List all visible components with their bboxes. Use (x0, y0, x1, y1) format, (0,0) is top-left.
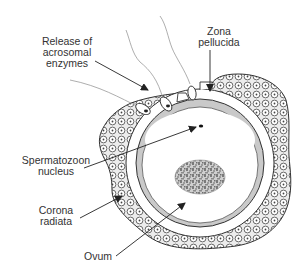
sperm-tail (160, 16, 190, 84)
label-ovum: Ovum (82, 251, 114, 262)
sperm-tail (126, 30, 163, 99)
label-acrosomal-enzymes: Release of acrosomal enzymes (37, 36, 97, 69)
sperm-tail (70, 80, 139, 107)
spermatozoon-nucleus (199, 124, 203, 127)
label-corona-radiata: Corona radiata (35, 205, 77, 227)
label-spermatozoon-nucleus: Spermatozoon nucleus (18, 155, 94, 177)
leader-corona (80, 196, 122, 218)
leader-acrosomal (95, 61, 148, 90)
ovum-nucleus (175, 160, 225, 194)
label-zona-pellucida: Zona pellucida (194, 26, 244, 48)
